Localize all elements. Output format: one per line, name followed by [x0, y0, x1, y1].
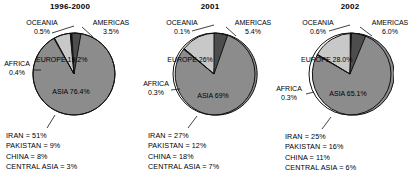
sublist-item-pakistan-3: PAKISTAN = 16% [285, 142, 356, 152]
sublist-item-china-3: CHINA = 11% [285, 153, 356, 163]
sublist-2: IRAN = 27% PAKISTAN = 12% CHINA = 18% CE… [148, 131, 219, 173]
sublist-item-iran-3: IRAN = 25% [285, 132, 356, 142]
pie-panel-2002: 2002 OCEANIA 0.6% [280, 0, 420, 182]
sublist-item-iran-2: IRAN = 27% [148, 131, 219, 141]
sublist-item-pakistan-1: PAKISTAN = 9% [6, 141, 77, 151]
sublist-1: IRAN = 51% PAKISTAN = 9% CHINA = 8% CENT… [6, 131, 77, 173]
label-europe-1: EUROPE 19.2% [36, 56, 84, 65]
label-asia-3: ASIA 65.1% [326, 90, 370, 99]
sublist-item-central-asia-2: CENTRAL ASIA = 7% [148, 162, 219, 172]
sublist-item-central-asia-3: CENTRAL ASIA = 6% [285, 163, 356, 173]
label-americas-2: AMERICAS 5.4% [225, 19, 281, 36]
label-africa-2: AFRICA 0.3% [138, 80, 174, 97]
label-oceania-3: OCEANIA 0.6% [290, 19, 346, 36]
label-asia-1: ASIA 76.4% [49, 88, 93, 97]
sublist-item-china-2: CHINA = 18% [148, 152, 219, 162]
label-africa-1: AFRICA 0.4% [0, 60, 35, 77]
label-asia-2: ASIA 69% [191, 92, 235, 101]
label-africa-3: AFRICA 0.3% [271, 85, 307, 102]
pie-panel-2001: 2001 OCEANIA 0.1% [140, 0, 280, 182]
sublist-item-iran-1: IRAN = 51% [6, 131, 77, 141]
figure-root: 1996-2000 OCEANIA [0, 0, 420, 182]
label-europe-3: EUROPE 28.0% [301, 56, 349, 65]
sublist-item-central-asia-1: CENTRAL ASIA = 3% [6, 162, 77, 172]
label-oceania-2: OCEANIA 0.1% [154, 19, 210, 36]
sublist-item-pakistan-2: PAKISTAN = 12% [148, 141, 219, 151]
sublist-item-china-1: CHINA = 8% [6, 152, 77, 162]
pie-panel-1996-2000: 1996-2000 OCEANIA [0, 0, 140, 182]
label-americas-3: AMERICAS 6.0% [361, 19, 419, 36]
label-oceania-1: OCEANIA 0.5% [14, 19, 70, 36]
sublist-3: IRAN = 25% PAKISTAN = 16% CHINA = 11% CE… [285, 132, 356, 174]
label-americas-1: AMERICAS 3.5% [83, 19, 139, 36]
label-europe-2: EUROPE 26% [166, 56, 214, 65]
